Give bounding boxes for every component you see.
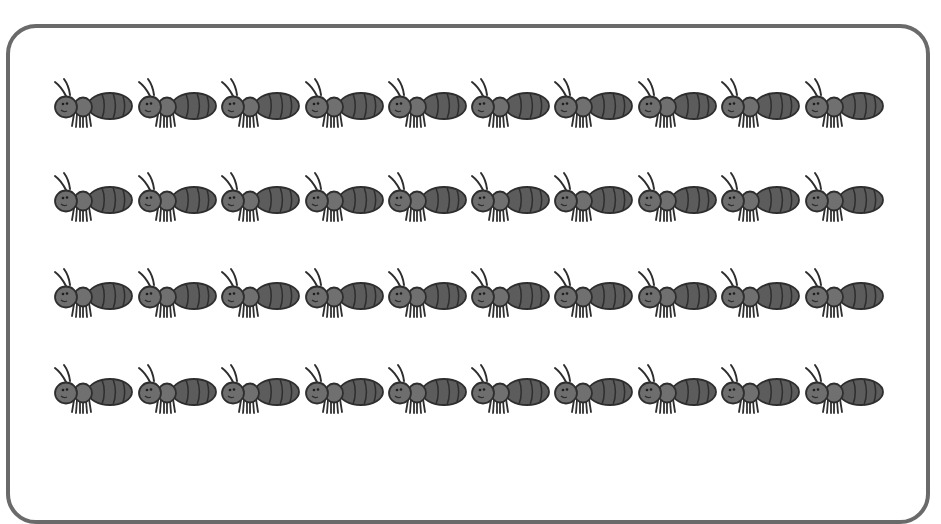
ant-icon xyxy=(801,362,885,418)
ant-icon xyxy=(467,266,551,322)
ant-icon xyxy=(717,170,801,226)
ant-icon xyxy=(634,76,718,132)
ant-icon xyxy=(467,362,551,418)
ant-icon xyxy=(717,76,801,132)
ant-icon xyxy=(550,266,634,322)
ant-icon xyxy=(134,266,218,322)
ant-icon xyxy=(384,76,468,132)
ant-icon xyxy=(801,170,885,226)
ant-icon xyxy=(50,266,134,322)
ant-icon xyxy=(634,362,718,418)
ant-icon xyxy=(134,76,218,132)
ant-icon xyxy=(50,76,134,132)
ant-icon xyxy=(634,170,718,226)
ant-icon xyxy=(550,362,634,418)
ant-icon xyxy=(467,170,551,226)
ant-icon xyxy=(134,170,218,226)
ant-icon xyxy=(217,266,301,322)
ant-icon xyxy=(801,76,885,132)
ant-icon xyxy=(550,170,634,226)
ant-icon xyxy=(217,362,301,418)
ant-icon xyxy=(301,170,385,226)
ant-icon xyxy=(50,362,134,418)
ant-icon xyxy=(384,266,468,322)
ant-icon xyxy=(134,362,218,418)
ant-icon xyxy=(384,170,468,226)
ant-icon xyxy=(50,170,134,226)
ant-icon xyxy=(550,76,634,132)
ant-icon xyxy=(217,76,301,132)
ant-icon xyxy=(467,76,551,132)
ant-icon xyxy=(634,266,718,322)
ant-icon xyxy=(801,266,885,322)
ant-icon xyxy=(717,266,801,322)
ant-icon xyxy=(301,362,385,418)
ant-icon xyxy=(717,362,801,418)
ant-icon xyxy=(301,76,385,132)
ant-icon xyxy=(301,266,385,322)
ant-icon xyxy=(217,170,301,226)
ant-icon xyxy=(384,362,468,418)
